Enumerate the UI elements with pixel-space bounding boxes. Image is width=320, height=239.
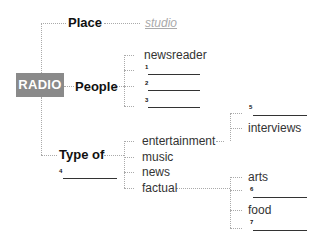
connector-people-vertical [124, 55, 125, 106]
connector-factual-children [176, 188, 230, 189]
type-entertainment: entertainment [142, 134, 215, 148]
connector-music [124, 157, 134, 158]
connector-blank-5 [230, 113, 242, 114]
connector-place [41, 23, 66, 24]
connector-place-studio [104, 23, 140, 24]
connector-entertainment-vertical [230, 113, 231, 141]
connector-newsreader [124, 55, 134, 56]
connector-news [124, 172, 134, 173]
blank-5[interactable] [253, 115, 307, 116]
connector-people [64, 86, 74, 87]
connector-entertainment-children [216, 141, 224, 142]
people-newsreader: newsreader [144, 48, 207, 62]
connector-blank-6 [230, 190, 242, 191]
connector-arts [230, 177, 242, 178]
branch-people: People [75, 80, 118, 94]
branch-type-of: Type of [59, 148, 104, 162]
entertainment-interviews: interviews [248, 121, 301, 135]
connector-blank-7 [230, 228, 242, 229]
blank-2[interactable] [148, 90, 200, 91]
blank-4[interactable] [63, 178, 117, 179]
type-news: news [142, 165, 170, 179]
connector-entertainment [124, 141, 134, 142]
blank-number-6: 6 [250, 186, 253, 193]
blank-number-1: 1 [145, 64, 148, 71]
factual-arts: arts [248, 170, 268, 184]
type-factual: factual [142, 181, 177, 195]
blank-3[interactable] [148, 107, 200, 108]
connector-typeof-children [104, 155, 124, 156]
blank-number-4: 4 [59, 168, 62, 175]
connector-typeof [41, 155, 57, 156]
connector-factual-vertical [230, 177, 231, 228]
connector-blank-1 [124, 70, 134, 71]
blank-number-5: 5 [249, 104, 252, 111]
blank-1[interactable] [148, 74, 200, 75]
blank-7[interactable] [253, 230, 307, 231]
connector-typeof-vertical [124, 141, 125, 188]
blank-number-2: 2 [145, 80, 148, 87]
connector-blank-2 [124, 86, 134, 87]
connector-root-vertical-lower [41, 97, 42, 155]
blank-number-3: 3 [145, 97, 148, 104]
factual-food: food [248, 203, 271, 217]
connector-factual [124, 188, 134, 189]
connector-food [230, 210, 242, 211]
root-node: RADIO [16, 73, 64, 97]
connector-blank-3 [124, 106, 134, 107]
blank-6[interactable] [253, 197, 307, 198]
place-studio: studio [145, 16, 177, 30]
connector-root-vertical [41, 23, 42, 73]
type-music: music [142, 150, 173, 164]
branch-place: Place [68, 16, 102, 30]
connector-interviews [230, 128, 242, 129]
blank-number-7: 7 [250, 219, 253, 226]
